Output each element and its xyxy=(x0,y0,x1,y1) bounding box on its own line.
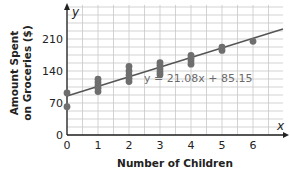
x-tick-label: 3 xyxy=(157,139,164,152)
x-axis-title: Number of Children xyxy=(60,157,290,169)
data-point xyxy=(157,59,164,66)
data-point xyxy=(64,103,71,110)
y-axis-title: Amount Spent on Groceries ($) xyxy=(2,10,38,135)
regression-equation: y = 21.08x + 85.15 xyxy=(144,72,252,85)
plot-area: xy0123456070140210y = 21.08x + 85.15 xyxy=(0,0,290,175)
y-tick-label: 140 xyxy=(42,65,63,78)
x-axis-letter: x xyxy=(276,119,285,133)
x-tick-label: 0 xyxy=(64,139,71,152)
x-tick-label: 6 xyxy=(250,139,257,152)
data-point xyxy=(219,44,226,51)
x-tick-label: 1 xyxy=(95,139,102,152)
data-point xyxy=(95,76,102,83)
x-tick-label: 5 xyxy=(219,139,226,152)
x-tick-label: 4 xyxy=(188,139,195,152)
data-point xyxy=(64,90,71,97)
y-axis-letter: y xyxy=(71,5,80,19)
y-axis-title-line-2: on Groceries ($) xyxy=(20,25,33,120)
y-tick-label: 0 xyxy=(56,129,63,142)
y-axis-arrow-icon xyxy=(64,3,70,10)
data-point xyxy=(250,38,257,45)
scatter-chart: xy0123456070140210y = 21.08x + 85.15 Amo… xyxy=(0,0,290,175)
data-point xyxy=(126,63,133,70)
y-tick-label: 70 xyxy=(49,97,63,110)
x-tick-label: 2 xyxy=(126,139,133,152)
data-point xyxy=(188,52,195,59)
y-axis-title-line-1: Amount Spent xyxy=(8,25,21,120)
y-tick-label: 210 xyxy=(42,33,63,46)
